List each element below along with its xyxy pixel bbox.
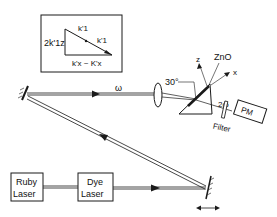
ruby-label-line2: Laser	[13, 189, 36, 199]
inset-top1-label: k'1	[78, 24, 89, 33]
filter-label: Filter	[212, 122, 232, 135]
wavevector-inset: 2k'1z k'1 k'1 k'x ~ K'x	[41, 15, 122, 72]
inset-bottom-label: k'x ~ K'x	[72, 59, 102, 68]
dye-label-line1: Dye	[87, 177, 103, 187]
dye-label-line2: Laser	[81, 189, 104, 199]
omega-label: ω	[115, 83, 122, 93]
dye-laser: Dye Laser	[78, 173, 113, 201]
inset-top2-label: k'1	[97, 36, 108, 45]
material-label: ZnO	[214, 52, 232, 62]
left-mirror	[18, 86, 28, 100]
ruby-laser: Ruby Laser	[11, 173, 43, 201]
beam-omega: ω	[27, 83, 160, 98]
ruby-label-line1: Ruby	[16, 177, 38, 187]
angle-label: 30°	[165, 77, 179, 87]
right-mirror	[206, 176, 214, 199]
beam-focused	[162, 93, 196, 100]
z-axis-label: z	[196, 55, 200, 64]
beam-dye-mirror	[113, 185, 206, 192]
beam-diagonal	[27, 96, 206, 189]
translation-arrow-icon	[196, 206, 220, 211]
lens	[154, 83, 162, 107]
x-axis-label: x	[233, 68, 237, 77]
inset-left-label: 2k'1z	[44, 38, 65, 48]
optical-setup-diagram: 2k'1z k'1 k'1 k'x ~ K'x ω 30°	[0, 0, 277, 217]
photomultiplier: PM	[234, 100, 267, 124]
